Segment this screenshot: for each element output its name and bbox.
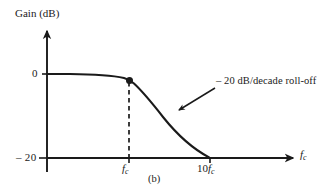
x-tick-label-10fc: 10fc [197, 163, 215, 176]
plot-canvas [0, 0, 325, 195]
tenfc-prefix: 10 [197, 162, 208, 174]
rolloff-annotation-text: – 20 dB/decade roll-off [216, 76, 316, 87]
cutoff-point-marker [126, 77, 133, 84]
figure-caption: (b) [148, 174, 160, 185]
tenfc-subscript-c: c [211, 167, 215, 176]
x-axis-label: fc [300, 149, 307, 162]
y-axis-label: Gain (dB) [15, 8, 59, 19]
bode-plot-figure: Gain (dB) 0 – 20 fc 10fc fc – 20 dB/deca… [0, 0, 325, 195]
annotation-leader-arrow [179, 88, 215, 110]
fc-subscript-c: c [125, 167, 129, 176]
y-tick-label-zero: 0 [32, 68, 38, 79]
x-axis-subscript-c: c [303, 153, 307, 162]
y-tick-label-minus-20: – 20 [16, 152, 36, 163]
x-tick-label-fc: fc [122, 163, 129, 176]
